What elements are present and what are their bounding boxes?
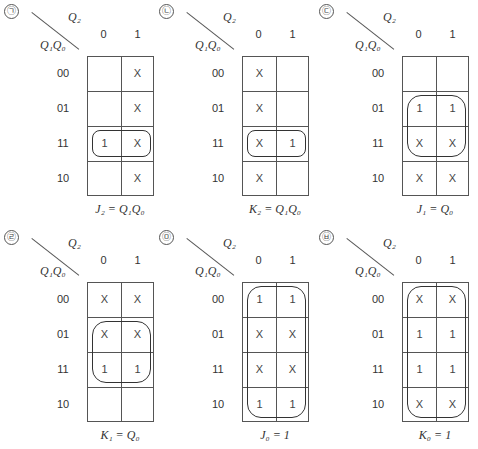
col-label: 1: [276, 254, 309, 266]
kmap-cell: X: [121, 282, 154, 317]
row-variable-label: Q₁Q₀: [40, 264, 66, 279]
col-label: 0: [242, 28, 275, 40]
equation-label: K₀ = 1: [385, 428, 478, 443]
kmap-cell: [436, 56, 469, 91]
grouping-loop: [247, 286, 306, 418]
karnaugh-map: ㉥Q₂Q₁Q₀0100011110XX1111XXK₀ = 1: [315, 226, 473, 446]
row-label: 00: [207, 293, 229, 305]
equation-label: J₀ = 1: [225, 428, 325, 443]
grouping-loop: [247, 130, 306, 157]
row-variable-label: Q₁Q₀: [195, 264, 221, 279]
map-marker: ㉡: [159, 4, 174, 19]
col-label: 0: [242, 254, 275, 266]
map-marker: ㉢: [319, 4, 334, 19]
kmap-grid: XX1111XX: [402, 282, 469, 422]
kmap-cell: [88, 387, 121, 422]
kmap-cell: X: [121, 91, 154, 126]
map-marker: ㉤: [159, 230, 174, 245]
kmap-grid: 11XXXX: [402, 56, 469, 196]
col-variable-label: Q₂: [383, 10, 396, 25]
kmap-cell: X: [121, 161, 154, 196]
kmap-grid: XXX1X: [242, 56, 309, 196]
col-variable-label: Q₂: [68, 236, 81, 251]
kmap-cell: X: [243, 91, 276, 126]
row-variable-label: Q₁Q₀: [40, 38, 66, 53]
col-label: 1: [436, 254, 469, 266]
row-variable-label: Q₁Q₀: [195, 38, 221, 53]
row-label: 10: [207, 172, 229, 184]
equation-label: K₂ = Q₁Q₀: [225, 202, 325, 217]
row-label: 10: [367, 172, 389, 184]
kmap-cell: X: [436, 161, 469, 196]
row-label: 01: [367, 328, 389, 340]
row-label: 01: [52, 328, 74, 340]
col-label: 1: [121, 28, 154, 40]
karnaugh-map: ㉤Q₂Q₁Q₀010001111011XXXX11J₀ = 1: [155, 226, 313, 446]
row-variable-label: Q₁Q₀: [355, 264, 381, 279]
row-label: 01: [52, 102, 74, 114]
row-label: 00: [367, 67, 389, 79]
map-marker: ㉥: [319, 230, 334, 245]
col-label: 0: [402, 28, 435, 40]
kmap-grid: XX1XX: [87, 56, 154, 196]
row-label: 10: [367, 398, 389, 410]
row-label: 11: [367, 363, 389, 375]
row-label: 00: [207, 67, 229, 79]
kmap-cell: X: [88, 282, 121, 317]
col-label: 0: [87, 254, 120, 266]
row-label: 00: [367, 293, 389, 305]
kmap-cell: X: [403, 161, 436, 196]
row-label: 11: [52, 363, 74, 375]
equation-label: J₁ = Q₀: [385, 202, 478, 217]
kmap-cell: [88, 91, 121, 126]
col-variable-label: Q₂: [68, 10, 81, 25]
row-label: 11: [367, 137, 389, 149]
kmap-cell: [121, 387, 154, 422]
grouping-loop: [92, 130, 151, 157]
row-label: 01: [207, 102, 229, 114]
grouping-loop: [92, 321, 151, 383]
kmap-cell: X: [243, 56, 276, 91]
kmap-cell: [88, 56, 121, 91]
map-marker: ㉠: [4, 4, 19, 19]
karnaugh-map: ㉡Q₂Q₁Q₀0100011110XXX1XK₂ = Q₁Q₀: [155, 0, 313, 220]
karnaugh-map: ㉠Q₂Q₁Q₀0100011110XX1XXJ₂ = Q₁Q₀: [0, 0, 158, 220]
kmap-grid: XXXX11: [87, 282, 154, 422]
kmap-cell: [276, 91, 309, 126]
row-label: 01: [367, 102, 389, 114]
col-label: 0: [87, 28, 120, 40]
row-label: 01: [207, 328, 229, 340]
kmap-cell: [276, 56, 309, 91]
map-marker: ㉣: [4, 230, 19, 245]
karnaugh-map: ㉣Q₂Q₁Q₀0100011110XXXX11K₁ = Q₀: [0, 226, 158, 446]
row-label: 10: [52, 398, 74, 410]
grouping-loop: [407, 286, 466, 418]
row-label: 11: [207, 137, 229, 149]
row-label: 11: [207, 363, 229, 375]
kmap-cell: X: [243, 161, 276, 196]
row-label: 11: [52, 137, 74, 149]
col-variable-label: Q₂: [223, 236, 236, 251]
kmap-cell: [403, 56, 436, 91]
kmap-grid: 11XXXX11: [242, 282, 309, 422]
row-variable-label: Q₁Q₀: [355, 38, 381, 53]
kmap-cell: X: [121, 56, 154, 91]
col-label: 1: [121, 254, 154, 266]
col-label: 0: [402, 254, 435, 266]
row-label: 00: [52, 293, 74, 305]
col-variable-label: Q₂: [383, 236, 396, 251]
grouping-loop: [407, 95, 466, 157]
row-label: 10: [52, 172, 74, 184]
col-label: 1: [276, 28, 309, 40]
kmap-cell: [88, 161, 121, 196]
kmap-cell: [276, 161, 309, 196]
karnaugh-map: ㉢Q₂Q₁Q₀010001111011XXXXJ₁ = Q₀: [315, 0, 473, 220]
col-label: 1: [436, 28, 469, 40]
row-label: 10: [207, 398, 229, 410]
col-variable-label: Q₂: [223, 10, 236, 25]
row-label: 00: [52, 67, 74, 79]
